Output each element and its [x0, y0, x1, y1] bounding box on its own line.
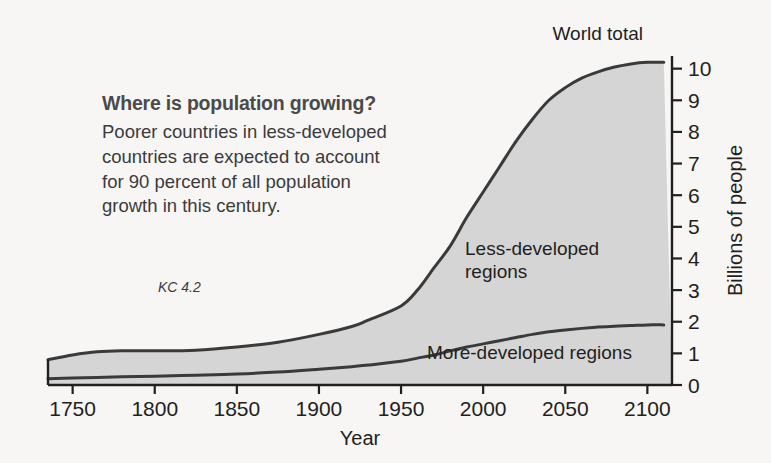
x-tick-label: 2100	[624, 397, 671, 420]
x-axis-title: Year	[340, 427, 381, 449]
population-area-chart: 17501800185019001950200020502100 0123456…	[0, 0, 771, 463]
annotation-less-developed-regions: Less-developed	[465, 238, 599, 259]
y-tick-label: 7	[688, 152, 700, 175]
y-tick-label: 6	[688, 184, 700, 207]
x-axis-tick-labels: 17501800185019001950200020502100	[49, 397, 670, 420]
annotation-more-developed-regions: More-developed regions	[427, 342, 632, 363]
y-tick-label: 2	[688, 310, 700, 333]
y-tick-label: 10	[688, 57, 711, 80]
x-axis-ticks	[73, 385, 648, 394]
y-tick-label: 8	[688, 120, 700, 143]
x-tick-label: 2000	[460, 397, 507, 420]
y-tick-label: 4	[688, 247, 700, 270]
x-tick-label: 2050	[542, 397, 589, 420]
callout-headline: Where is population growing?	[102, 92, 402, 114]
y-axis-title: Billions of people	[724, 145, 746, 296]
x-tick-label: 1950	[378, 397, 425, 420]
x-tick-label: 1750	[49, 397, 96, 420]
y-tick-label: 3	[688, 279, 700, 302]
y-axis-tick-labels: 012345678910	[688, 57, 711, 396]
figure-code-label: KC 4.2	[158, 279, 201, 295]
annotation-world-total: World total	[553, 23, 643, 44]
annotation-less-developed-regions: regions	[465, 261, 527, 282]
population-growth-figure: 17501800185019001950200020502100 0123456…	[0, 0, 771, 463]
y-tick-label: 9	[688, 89, 700, 112]
y-tick-label: 0	[688, 374, 700, 397]
x-tick-label: 1900	[296, 397, 343, 420]
x-tick-label: 1800	[131, 397, 178, 420]
callout-body: Poorer countries in less-developed count…	[102, 120, 402, 218]
callout-text-block: Where is population growing? Poorer coun…	[102, 92, 402, 219]
y-tick-label: 5	[688, 215, 700, 238]
y-tick-label: 1	[688, 342, 700, 365]
y-axis-ticks	[672, 69, 682, 385]
x-tick-label: 1850	[213, 397, 260, 420]
